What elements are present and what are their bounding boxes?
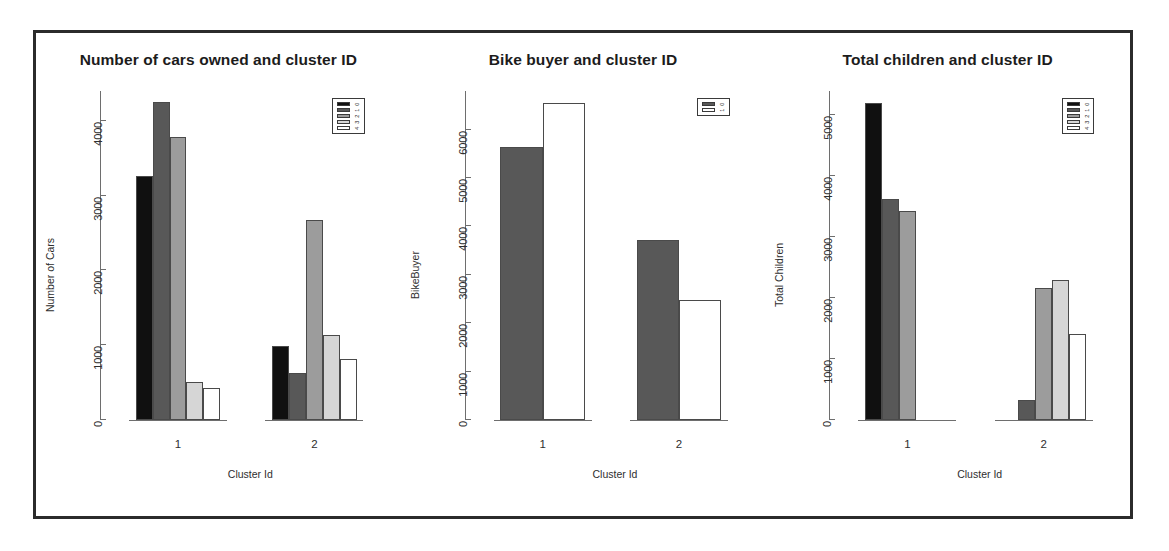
legend-key-label: 4 <box>355 126 360 131</box>
y-axis-tick-label: 0 <box>92 421 104 427</box>
y-axis-tick <box>465 129 471 130</box>
y-axis-tick-label: 5000 <box>457 179 469 203</box>
plot-area: 010002000300040005000600012Cluster Id01 <box>479 91 752 420</box>
plot-area: 01000200030004000500012Cluster Id01234 <box>843 91 1116 420</box>
x-axis-label: Cluster Id <box>114 468 387 480</box>
legend-key-label: 4 <box>1085 126 1090 131</box>
y-axis-tick-label: 0 <box>821 421 833 427</box>
y-axis-tick-label: 3000 <box>457 276 469 300</box>
legend-swatch-list <box>337 102 350 131</box>
x-axis-tick-label: 2 <box>1040 438 1046 450</box>
legend-key-label: 3 <box>1085 120 1090 125</box>
x-axis-segment <box>995 420 1093 421</box>
bar <box>865 103 882 420</box>
chart-legend: 01234 <box>1062 98 1095 135</box>
y-axis-tick-label: 0 <box>457 421 469 427</box>
legend-swatch <box>1067 120 1080 125</box>
x-axis-segment <box>494 420 592 421</box>
plot-area: 0100020003000400012Cluster Id01234 <box>114 91 387 420</box>
legend-key-list: 01234 <box>355 102 360 131</box>
y-axis-label: BikeBuyer <box>409 251 421 299</box>
bar <box>272 346 289 420</box>
legend-swatch-list <box>1067 102 1080 131</box>
legend-key-label: 3 <box>355 120 360 125</box>
y-axis-tick-label: 6000 <box>457 131 469 155</box>
x-axis-segment <box>630 420 728 421</box>
y-axis-tick-label: 3000 <box>821 238 833 262</box>
y-axis-tick-label: 4000 <box>821 177 833 201</box>
legend-key-label: 0 <box>720 102 725 107</box>
legend-swatch <box>337 102 350 107</box>
figure-frame: Number of cars owned and cluster IDNumbe… <box>33 30 1133 519</box>
x-axis-tick-label: 1 <box>904 438 910 450</box>
x-axis-label: Cluster Id <box>843 468 1116 480</box>
bar <box>203 388 220 420</box>
legend-key-label: 0 <box>1085 102 1090 107</box>
y-axis-tick-label: 1000 <box>457 373 469 397</box>
x-axis-label: Cluster Id <box>479 468 752 480</box>
y-axis-tick-label: 1000 <box>92 346 104 370</box>
y-axis-tick <box>100 195 106 196</box>
chart-title: Total children and cluster ID <box>765 51 1130 69</box>
legend-key-list: 01 <box>720 102 725 113</box>
legend-swatch <box>337 126 350 131</box>
bar <box>153 102 170 420</box>
y-axis-tick-label: 2000 <box>821 299 833 323</box>
chart-panel-bike: Bike buyer and cluster IDBikeBuyer010002… <box>401 33 766 516</box>
x-axis-segment <box>265 420 363 421</box>
chart-title: Number of cars owned and cluster ID <box>36 51 401 69</box>
legend-swatch <box>1067 114 1080 119</box>
bar <box>340 359 357 420</box>
bar <box>882 199 899 420</box>
chart-legend: 01234 <box>332 98 365 135</box>
legend-swatch <box>337 120 350 125</box>
bar <box>1035 288 1052 420</box>
x-axis-tick-label: 2 <box>311 438 317 450</box>
legend-swatch <box>337 114 350 119</box>
bar <box>899 211 916 420</box>
legend-key-label: 2 <box>355 114 360 119</box>
bar <box>323 335 340 420</box>
y-axis-tick-label: 4000 <box>457 227 469 251</box>
bar <box>170 137 187 420</box>
y-axis-label: Total Children <box>773 242 785 306</box>
legend-swatch <box>1067 126 1080 131</box>
chart-panels: Number of cars owned and cluster IDNumbe… <box>36 33 1130 516</box>
legend-key-label: 1 <box>1085 108 1090 113</box>
x-axis-tick-label: 1 <box>539 438 545 450</box>
legend-key-label: 0 <box>355 102 360 107</box>
y-axis-tick <box>100 419 106 420</box>
legend-swatch <box>1067 108 1080 113</box>
y-axis-tick-label: 2000 <box>457 324 469 348</box>
legend-swatch-list <box>702 102 715 113</box>
bar <box>637 240 679 420</box>
bar <box>136 176 153 421</box>
y-axis-tick-label: 5000 <box>821 116 833 140</box>
x-axis-segment <box>129 420 227 421</box>
bar <box>289 373 306 420</box>
bar-group-container: 12 <box>843 91 1116 420</box>
y-axis-tick <box>465 371 471 372</box>
legend-key-label: 1 <box>355 108 360 113</box>
legend-swatch <box>702 108 715 113</box>
bar <box>500 147 542 420</box>
bar <box>1018 400 1035 420</box>
y-axis-label: Number of Cars <box>44 237 56 311</box>
bar <box>1069 334 1086 421</box>
legend-swatch <box>702 102 715 107</box>
bar <box>186 382 203 420</box>
legend-swatch <box>337 108 350 113</box>
legend-key-list: 01234 <box>1085 102 1090 131</box>
bar <box>543 103 585 420</box>
y-axis-tick-label: 2000 <box>92 271 104 295</box>
y-axis-tick <box>465 419 471 420</box>
chart-panel-children: Total children and cluster IDTotal Child… <box>765 33 1130 516</box>
x-axis-segment <box>858 420 956 421</box>
bar <box>679 300 721 420</box>
y-axis-tick-label: 3000 <box>92 197 104 221</box>
y-axis-tick-label: 4000 <box>92 122 104 146</box>
y-axis-tick <box>829 419 835 420</box>
bar <box>306 220 323 420</box>
chart-legend: 01 <box>697 98 730 117</box>
y-axis-tick-label: 1000 <box>821 360 833 384</box>
